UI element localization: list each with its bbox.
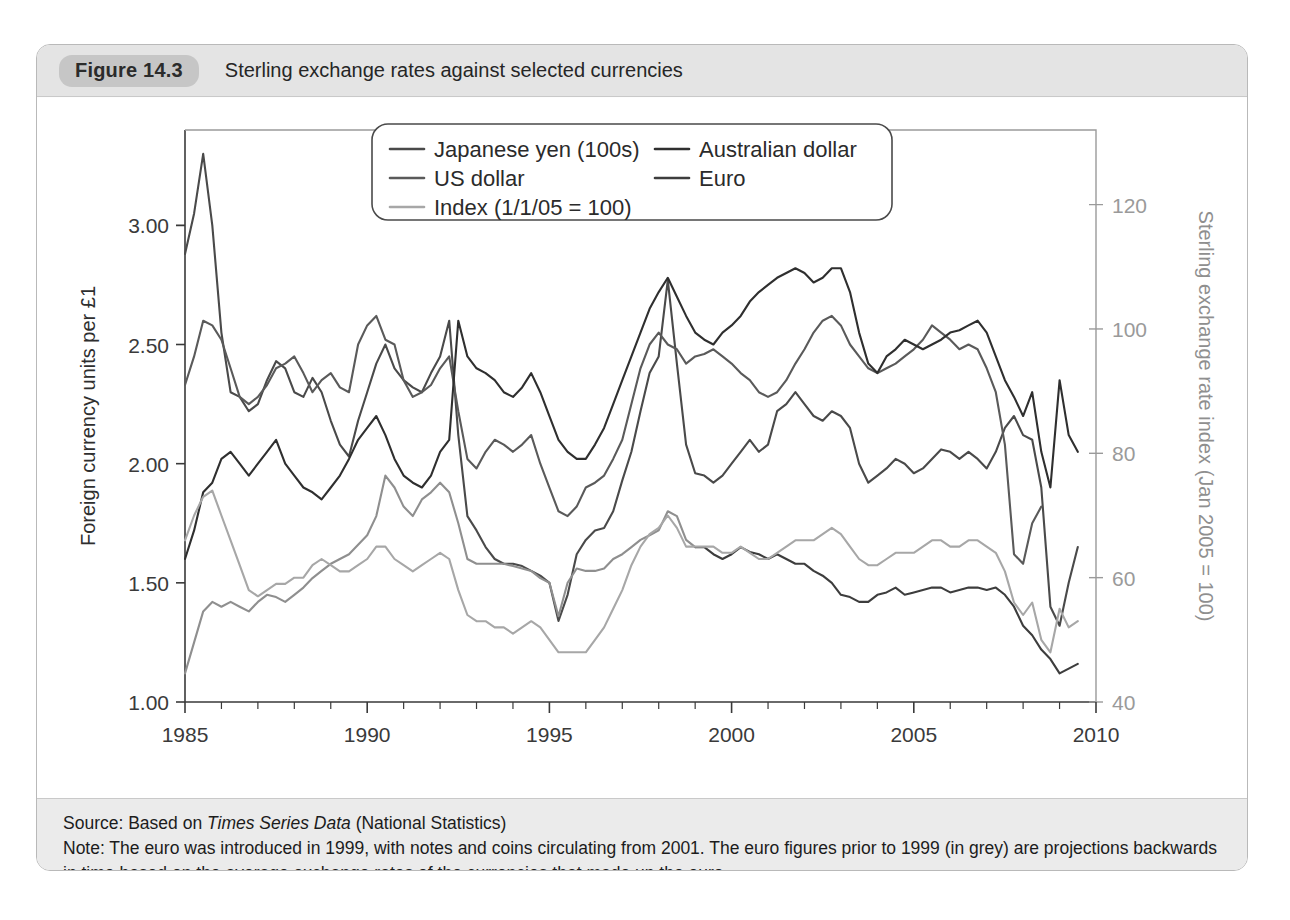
y-tick-label-left: 2.00 bbox=[128, 453, 169, 476]
exchange-rate-line-chart: 1.001.502.002.503.0040608010012019851990… bbox=[37, 98, 1248, 798]
series-line-euro-projected bbox=[185, 476, 695, 674]
legend-label: Japanese yen (100s) bbox=[434, 137, 639, 162]
x-tick-label: 2005 bbox=[890, 723, 937, 746]
x-tick-label: 1985 bbox=[162, 723, 209, 746]
chart-tick-labels: 1.001.502.002.503.0040608010012019851990… bbox=[128, 194, 1147, 746]
x-tick-label: 2000 bbox=[708, 723, 755, 746]
chart-legend: Japanese yen (100s)US dollarIndex (1/1/0… bbox=[372, 124, 892, 220]
y-tick-label-right: 120 bbox=[1112, 194, 1147, 217]
series-line-japanese-yen-100s bbox=[185, 154, 1078, 626]
series-line-us-dollar bbox=[185, 316, 1041, 564]
series-line-index-1-1-05-100 bbox=[185, 491, 1078, 653]
x-tick-label: 1990 bbox=[344, 723, 391, 746]
chart-series-group bbox=[185, 154, 1078, 674]
legend-label: US dollar bbox=[434, 166, 524, 191]
y-tick-label-left: 1.00 bbox=[128, 691, 169, 714]
y-axis-title-left: Foreign currency units per £1 bbox=[77, 286, 99, 546]
note-line: Note: The euro was introduced in 1999, w… bbox=[63, 836, 1221, 871]
source-prefix: Source: Based on bbox=[63, 813, 207, 833]
source-suffix: (National Statistics) bbox=[351, 813, 507, 833]
legend-label: Index (1/1/05 = 100) bbox=[434, 195, 632, 220]
y-tick-label-right: 80 bbox=[1112, 442, 1135, 465]
y-tick-label-left: 1.50 bbox=[128, 572, 169, 595]
figure-title: Sterling exchange rates against selected… bbox=[225, 59, 683, 82]
x-tick-label: 2010 bbox=[1073, 723, 1120, 746]
y-tick-label-right: 100 bbox=[1112, 318, 1147, 341]
figure-footnotes: Source: Based on Times Series Data (Nati… bbox=[37, 799, 1247, 871]
y-axis-title-right: Sterling exchange rate index (Jan 2005 =… bbox=[1195, 211, 1217, 622]
series-line-australian-dollar bbox=[185, 268, 1078, 559]
figure-header: Figure 14.3 Sterling exchange rates agai… bbox=[37, 45, 1247, 97]
chart-panel: 1.001.502.002.503.0040608010012019851990… bbox=[37, 98, 1247, 799]
y-tick-label-left: 2.50 bbox=[128, 334, 169, 357]
y-tick-label-right: 60 bbox=[1112, 567, 1135, 590]
x-tick-label: 1995 bbox=[526, 723, 573, 746]
y-tick-label-left: 3.00 bbox=[128, 214, 169, 237]
source-title: Times Series Data bbox=[207, 813, 351, 833]
figure-container: Figure 14.3 Sterling exchange rates agai… bbox=[36, 44, 1248, 871]
source-line: Source: Based on Times Series Data (Nati… bbox=[63, 811, 1221, 836]
figure-number-badge: Figure 14.3 bbox=[59, 55, 199, 87]
legend-label: Australian dollar bbox=[699, 137, 857, 162]
legend-label: Euro bbox=[699, 166, 745, 191]
y-tick-label-right: 40 bbox=[1112, 691, 1135, 714]
